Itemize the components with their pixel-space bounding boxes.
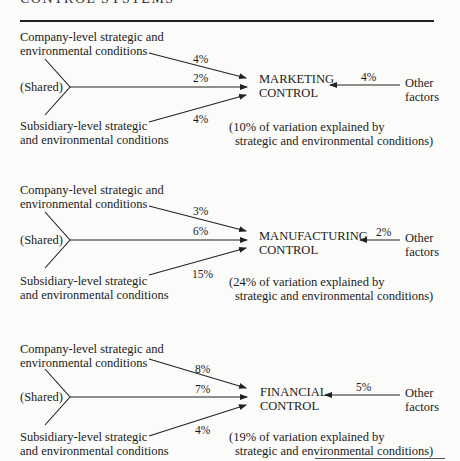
shared-label: (Shared) bbox=[20, 390, 63, 404]
subsidiary-pct: 15% bbox=[192, 268, 213, 280]
explained-note: (19% of variation explained by strategic… bbox=[229, 430, 433, 458]
subsidiary-label: Subsidiary-level strategic and environme… bbox=[20, 119, 169, 147]
shared-label: (Shared) bbox=[20, 233, 63, 247]
company-pct: 3% bbox=[193, 205, 208, 217]
shared-pct: 7% bbox=[195, 383, 210, 395]
company-pct: 8% bbox=[195, 363, 210, 375]
other-label: Other factors bbox=[405, 231, 439, 259]
company-label: Company-level strategic and environmenta… bbox=[20, 183, 164, 211]
explained-note: (10% of variation explained by strategic… bbox=[229, 120, 433, 148]
subsidiary-label: Subsidiary-level strategic and environme… bbox=[20, 430, 169, 458]
other-pct: 2% bbox=[376, 226, 391, 238]
target-label: MARKETING CONTROL bbox=[259, 72, 334, 100]
shared-pct: 6% bbox=[193, 225, 208, 237]
other-label: Other factors bbox=[405, 76, 439, 104]
explained-note: (24% of variation explained by strategic… bbox=[229, 275, 433, 303]
subsidiary-pct: 4% bbox=[195, 424, 210, 436]
subsidiary-pct: 4% bbox=[193, 113, 208, 125]
company-pct: 4% bbox=[193, 53, 208, 65]
other-pct: 4% bbox=[361, 71, 376, 83]
shared-label: (Shared) bbox=[20, 80, 63, 94]
subsidiary-label: Subsidiary-level strategic and environme… bbox=[20, 274, 169, 302]
target-label: FINANCIAL CONTROL bbox=[260, 385, 327, 413]
other-label: Other factors bbox=[405, 386, 439, 414]
other-pct: 5% bbox=[356, 381, 371, 393]
company-label: Company-level strategic and environmenta… bbox=[20, 30, 164, 58]
shared-pct: 2% bbox=[193, 72, 208, 84]
footer-rule bbox=[315, 458, 445, 459]
target-label: MANUFACTURING CONTROL bbox=[259, 229, 368, 257]
company-label: Company-level strategic and environmenta… bbox=[20, 342, 164, 370]
